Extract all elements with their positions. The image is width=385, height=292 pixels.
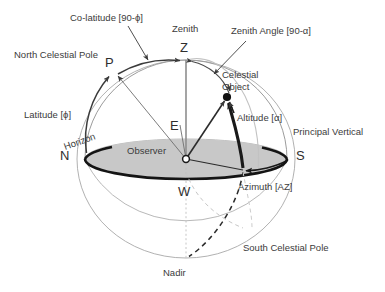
observer-dot <box>183 156 190 163</box>
label-zenith-angle: Zenith Angle [90-α] <box>231 26 311 36</box>
label-celestial-object-line1: Celestial <box>222 70 258 80</box>
point-label-north-N: N <box>60 149 69 163</box>
label-zenith: Zenith <box>172 24 198 34</box>
label-observer: Observer <box>127 146 166 156</box>
label-south-celestial-pole: South Celestial Pole <box>243 243 329 253</box>
label-co-latitude: Co-latitude [90-ϕ] <box>70 13 143 23</box>
point-label-east-E: E <box>170 119 179 133</box>
label-azimuth: Azimuth [AZ] <box>238 182 292 192</box>
label-principal-vertical: Principal Vertical <box>293 127 363 137</box>
label-north-celestial-pole: North Celestial Pole <box>14 50 98 60</box>
label-latitude: Latitude [ϕ] <box>24 110 71 120</box>
label-celestial-object-line2: Object <box>222 82 249 92</box>
diagram-canvas: Co-latitude [90-ϕ] Zenith Zenith Angle [… <box>0 0 385 292</box>
object-vertical-circle-dashed-lower <box>189 172 243 257</box>
leader-co-latitude <box>128 26 148 60</box>
point-label-west-W: W <box>178 185 190 199</box>
point-label-zenith-Z: Z <box>180 41 188 55</box>
label-nadir: Nadir <box>163 268 186 278</box>
celestial-object-dot <box>223 93 231 101</box>
label-altitude: Altitude [α] <box>237 113 282 123</box>
point-label-pole-P: P <box>105 56 114 70</box>
point-label-south-S: S <box>296 149 305 163</box>
